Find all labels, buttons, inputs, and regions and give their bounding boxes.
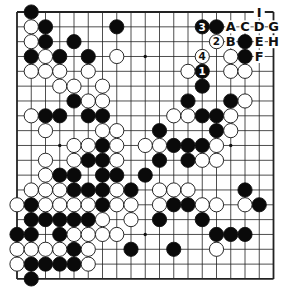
white-stone	[138, 138, 152, 152]
black-stone	[24, 257, 38, 271]
point-label-g: G	[268, 19, 279, 34]
black-stone	[195, 79, 209, 93]
white-stone	[81, 242, 95, 256]
black-stone	[24, 5, 38, 19]
white-stone	[81, 257, 95, 271]
white-stone	[238, 94, 252, 108]
black-stone	[95, 109, 109, 123]
black-stone	[95, 183, 109, 197]
black-stone	[53, 49, 67, 63]
white-stone	[95, 94, 109, 108]
move-number: 2	[213, 35, 220, 47]
black-stone	[209, 109, 223, 123]
black-stone	[53, 257, 67, 271]
black-stone	[238, 35, 252, 49]
white-stone	[38, 183, 52, 197]
black-stone: 1	[195, 64, 209, 78]
white-stone	[24, 242, 38, 256]
white-stone	[24, 183, 38, 197]
white-stone	[238, 198, 252, 212]
white-stone	[38, 124, 52, 138]
star-point	[229, 144, 232, 147]
point-label-i: I	[257, 5, 262, 20]
white-stone	[24, 35, 38, 49]
black-stone	[124, 242, 138, 256]
white-stone	[110, 198, 124, 212]
black-stone	[81, 109, 95, 123]
white-stone	[81, 198, 95, 212]
black-stone	[195, 213, 209, 227]
white-stone	[110, 138, 124, 152]
white-stone	[10, 242, 24, 256]
white-stone: 4	[195, 49, 209, 63]
black-stone	[181, 153, 195, 167]
white-stone	[24, 64, 38, 78]
white-stone	[152, 183, 166, 197]
white-stone	[110, 49, 124, 63]
move-number: 1	[199, 65, 206, 77]
star-point	[144, 233, 147, 236]
white-stone	[110, 124, 124, 138]
black-stone	[81, 49, 95, 63]
white-stone	[38, 49, 52, 63]
black-stone	[81, 213, 95, 227]
black-stone	[167, 198, 181, 212]
white-stone	[224, 49, 238, 63]
white-stone	[224, 124, 238, 138]
black-stone	[238, 49, 252, 63]
point-label-e: E	[255, 34, 264, 49]
white-stone	[110, 153, 124, 167]
black-stone	[67, 213, 81, 227]
white-stone	[95, 79, 109, 93]
black-stone: 3	[195, 20, 209, 34]
white-stone	[67, 198, 81, 212]
black-stone	[24, 213, 38, 227]
star-point	[144, 55, 147, 58]
white-stone	[209, 153, 223, 167]
black-stone	[110, 168, 124, 182]
white-stone	[209, 242, 223, 256]
black-stone	[53, 213, 67, 227]
white-stone	[195, 198, 209, 212]
black-stone	[152, 124, 166, 138]
black-stone	[24, 272, 38, 286]
white-stone	[53, 242, 67, 256]
black-stone	[152, 213, 166, 227]
black-stone	[167, 242, 181, 256]
white-stone	[38, 64, 52, 78]
white-stone	[67, 153, 81, 167]
white-stone	[124, 213, 138, 227]
black-stone	[81, 183, 95, 197]
white-stone	[67, 227, 81, 241]
white-stone	[24, 109, 38, 123]
white-stone	[81, 227, 95, 241]
black-stone	[67, 35, 81, 49]
move-number: 4	[199, 50, 206, 62]
black-stone	[209, 227, 223, 241]
black-stone	[53, 109, 67, 123]
black-stone	[24, 198, 38, 212]
black-stone	[38, 213, 52, 227]
white-stone	[10, 257, 24, 271]
white-stone	[53, 79, 67, 93]
white-stone	[38, 168, 52, 182]
black-stone	[152, 153, 166, 167]
black-stone	[224, 94, 238, 108]
white-stone	[95, 124, 109, 138]
white-stone	[38, 153, 52, 167]
white-stone	[209, 138, 223, 152]
white-stone	[224, 109, 238, 123]
black-stone	[38, 257, 52, 271]
black-stone	[38, 35, 52, 49]
white-stone	[167, 109, 181, 123]
white-stone	[195, 153, 209, 167]
black-stone	[138, 168, 152, 182]
black-stone	[67, 242, 81, 256]
go-board: 3124 ACDGBEHFI	[0, 0, 281, 295]
black-stone	[67, 94, 81, 108]
black-stone	[195, 109, 209, 123]
black-stone	[167, 138, 181, 152]
white-stone	[53, 183, 67, 197]
white-stone	[24, 20, 38, 34]
black-stone	[181, 94, 195, 108]
